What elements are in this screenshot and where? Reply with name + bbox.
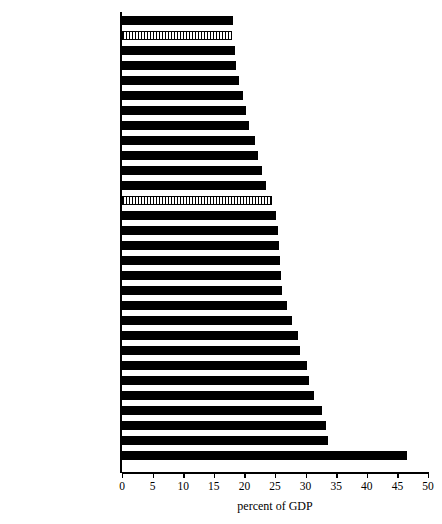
x-axis-tick xyxy=(428,472,429,478)
bar-row: New Zealand xyxy=(122,403,428,418)
x-axis-tick xyxy=(244,472,245,478)
bar-row: Canada xyxy=(122,298,428,313)
bar-hatched xyxy=(122,31,232,40)
bar-solid xyxy=(122,46,235,55)
bar-solid xyxy=(122,211,276,220)
bar-row: Estonia xyxy=(122,148,428,163)
bar-row: Spain xyxy=(122,163,428,178)
bar-solid xyxy=(122,91,243,100)
bar-solid xyxy=(122,376,309,385)
bar-row: Switzerland xyxy=(122,103,428,118)
x-axis-tick xyxy=(336,472,337,478)
bar-row: Sweden xyxy=(122,433,428,448)
x-axis-tick xyxy=(122,472,123,478)
x-axis-tick-label: 50 xyxy=(408,479,442,493)
bar-solid xyxy=(122,316,292,325)
bar-solid xyxy=(122,181,266,190)
bar-row: Iceland xyxy=(122,418,428,433)
plot-area: SlovakiaKoreaCzechChileIrelandUnited sta… xyxy=(122,12,428,472)
bar-row: Slovenia xyxy=(122,133,428,148)
bar-solid xyxy=(122,406,322,415)
bar-solid xyxy=(122,331,298,340)
bar-row: Ireland xyxy=(122,73,428,88)
bar-solid xyxy=(122,76,239,85)
bar-solid xyxy=(122,271,281,280)
bar-solid xyxy=(122,391,314,400)
bar-row: Belgium xyxy=(122,373,428,388)
bar-solid xyxy=(122,256,280,265)
bar-row: United states xyxy=(122,88,428,103)
bar-solid xyxy=(122,16,233,25)
bar-row: Chile xyxy=(122,58,428,73)
x-axis-tick xyxy=(397,472,398,478)
x-axis-tick xyxy=(367,472,368,478)
bar-solid xyxy=(122,61,236,70)
x-axis-tick xyxy=(306,472,307,478)
bar-row: Turkey xyxy=(122,118,428,133)
bar-row: Finland xyxy=(122,388,428,403)
bar-solid xyxy=(122,421,326,430)
y-axis-line xyxy=(120,12,122,473)
bar-row: Israel xyxy=(122,238,428,253)
bar-chart: SlovakiaKoreaCzechChileIrelandUnited sta… xyxy=(0,0,442,524)
x-axis-tick xyxy=(214,472,215,478)
x-axis-tick xyxy=(183,472,184,478)
bar-solid xyxy=(122,151,258,160)
bar-solid xyxy=(122,106,246,115)
x-axis-title: percent of GDP xyxy=(122,499,428,514)
bar-row: Czech xyxy=(122,43,428,58)
bar-row: OECD average xyxy=(122,193,428,208)
x-axis-tick xyxy=(275,472,276,478)
bar-row: Germany xyxy=(122,178,428,193)
bar-row: Denmark xyxy=(122,448,428,463)
bar-solid xyxy=(122,301,287,310)
bar-row: Italy xyxy=(122,358,428,373)
bar-solid xyxy=(122,286,282,295)
bar-solid xyxy=(122,241,279,250)
bar-solid xyxy=(122,361,307,370)
bar-solid xyxy=(122,451,407,460)
bar-solid xyxy=(122,166,262,175)
bar-row: Austria xyxy=(122,343,428,358)
bar-solid xyxy=(122,136,255,145)
bar-row: Norway xyxy=(122,313,428,328)
bar-row: United Kingdom xyxy=(122,283,428,298)
bar-row: Hungary xyxy=(122,253,428,268)
bar-solid xyxy=(122,121,249,130)
bar-hatched xyxy=(122,196,272,205)
bar-row: Greece xyxy=(122,223,428,238)
bar-row: France xyxy=(122,328,428,343)
bar-row: Slovakia xyxy=(122,13,428,28)
bar-row: Luxembourg xyxy=(122,268,428,283)
bar-solid xyxy=(122,436,328,445)
bar-row: Portugal xyxy=(122,208,428,223)
x-axis-tick xyxy=(153,472,154,478)
bar-solid xyxy=(122,346,300,355)
bar-row: Korea xyxy=(122,28,428,43)
bar-solid xyxy=(122,226,278,235)
